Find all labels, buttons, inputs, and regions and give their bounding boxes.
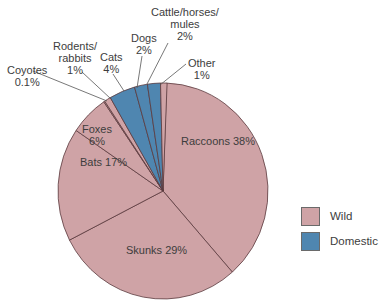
label-coyotes-name: Coyotes xyxy=(7,64,47,76)
leader-rodents xyxy=(82,72,111,99)
label-foxes-pct: 6% xyxy=(82,135,112,147)
label-other: Other 1% xyxy=(188,57,216,81)
label-foxes-name: Foxes xyxy=(82,123,112,135)
leader-other xyxy=(160,64,186,85)
label-foxes: Foxes 6% xyxy=(82,123,112,147)
label-cats: Cats 4% xyxy=(100,51,123,75)
label-rodents-name1: Rodents/ xyxy=(53,40,97,52)
legend-item-wild: Wild xyxy=(301,207,378,225)
label-raccoons: Raccoons 38% xyxy=(181,135,255,147)
label-cattle-name2: mules xyxy=(151,18,219,30)
label-cattle-pct: 2% xyxy=(151,30,219,42)
label-other-name: Other xyxy=(188,57,216,69)
label-rodents-name2: rabbits xyxy=(53,52,97,64)
leader-dogs xyxy=(137,56,142,88)
legend-swatch-domestic xyxy=(301,232,320,251)
label-cats-name: Cats xyxy=(100,51,123,63)
label-skunks: Skunks 29% xyxy=(126,244,187,256)
label-cats-pct: 4% xyxy=(100,63,123,75)
label-rodents: Rodents/ rabbits 1% xyxy=(53,40,97,76)
label-cattle: Cattle/horses/ mules 2% xyxy=(151,6,219,42)
label-coyotes: Coyotes 0.1% xyxy=(7,64,47,88)
label-bats: Bats 17% xyxy=(80,156,127,168)
label-cattle-name1: Cattle/horses/ xyxy=(151,6,219,18)
legend-swatch-wild xyxy=(301,207,320,226)
label-other-pct: 1% xyxy=(188,69,216,81)
legend-item-domestic: Domestic xyxy=(301,232,378,250)
legend-label-wild: Wild xyxy=(330,210,352,222)
label-dogs-pct: 2% xyxy=(131,44,157,56)
legend: Wild Domestic xyxy=(301,207,378,257)
leader-cats xyxy=(113,74,124,91)
label-coyotes-pct: 0.1% xyxy=(7,76,47,88)
pie-slices xyxy=(58,83,268,299)
label-rodents-pct: 1% xyxy=(53,64,97,76)
legend-label-domestic: Domestic xyxy=(330,235,378,247)
